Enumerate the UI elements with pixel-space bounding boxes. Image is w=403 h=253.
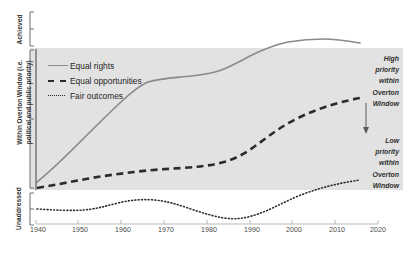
annotation-low-line-1: Low [343, 135, 399, 146]
axis-label-overton-line1: Within Overton Window (i.e. [15, 28, 24, 176]
legend-item-fair-outcomes: Fair outcomes [48, 88, 142, 103]
xtick-1980: 1980 [201, 226, 217, 234]
xtick-1960: 1960 [115, 226, 131, 234]
annotation-low-line-5: Window [343, 180, 399, 191]
series-fair-outcomes [37, 180, 360, 219]
xtick-2000: 2000 [286, 226, 302, 234]
chart-legend: Equal rights Equal opportunities Fair ou… [48, 58, 142, 103]
solid-line-icon [48, 61, 68, 70]
annotation-low-priority: Low priority within Overton Window [343, 135, 399, 191]
annotation-low-line-3: within [343, 157, 399, 168]
x-axis-tick-labels: 1940 1950 1960 1970 1980 1990 2000 2010 … [0, 226, 403, 240]
legend-label-equal-rights: Equal rights [70, 61, 114, 71]
xtick-2020: 2020 [370, 226, 386, 234]
annotation-high-line-2: priority [343, 64, 399, 75]
annotation-high-line-3: within [343, 75, 399, 86]
xtick-1940: 1940 [30, 226, 46, 234]
legend-label-equal-opportunities: Equal opportunities [70, 76, 142, 86]
annotation-high-line-1: High [343, 53, 399, 64]
legend-label-fair-outcomes: Fair outcomes [70, 91, 123, 101]
dotted-line-icon [48, 91, 68, 100]
legend-item-equal-rights: Equal rights [48, 58, 142, 73]
axis-label-overton-line2: political and public priority) [24, 28, 33, 176]
xtick-1950: 1950 [72, 226, 88, 234]
annotation-high-line-5: Window [343, 98, 399, 109]
chart-figure: Achieved Within Overton Window (i.e. pol… [0, 0, 403, 253]
dashed-line-icon [48, 76, 68, 85]
annotation-high-priority: High priority within Overton Window [343, 53, 399, 109]
annotation-high-line-4: Overton [343, 87, 399, 98]
xtick-1990: 1990 [244, 226, 260, 234]
axis-label-overton-window: Within Overton Window (i.e. political an… [15, 28, 34, 176]
annotation-low-line-2: priority [343, 146, 399, 157]
annotation-low-line-4: Overton [343, 169, 399, 180]
xtick-2010: 2010 [329, 226, 345, 234]
chart-series-layer [0, 0, 403, 253]
legend-item-equal-opportunities: Equal opportunities [48, 73, 142, 88]
series-equal-opportunities [37, 98, 360, 188]
xtick-1970: 1970 [158, 226, 174, 234]
